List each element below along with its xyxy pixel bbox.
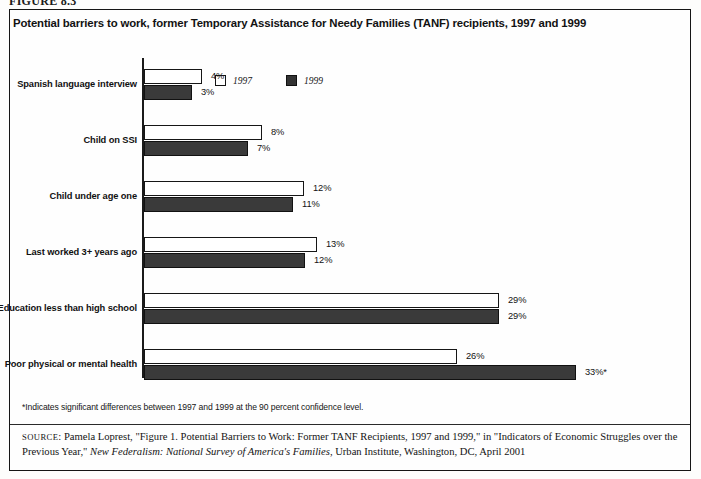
category-label: Education less than high school	[0, 303, 137, 313]
bar-1999	[144, 309, 499, 324]
bar-value-1999: 3%	[201, 87, 214, 97]
chart-plot-area: 1997 1999 Spanish language interview4%3%…	[0, 52, 682, 392]
bar-1997	[144, 349, 457, 364]
bar-value-1997: 26%	[466, 351, 484, 361]
bar-1997	[144, 293, 499, 308]
bar-1999	[144, 141, 248, 156]
source-text-part2: , Urban Institute, Washington, DC, April…	[330, 446, 526, 457]
bar-1997	[144, 125, 262, 140]
page-title: Potential barriers to work, former Tempo…	[13, 16, 653, 30]
source-divider	[10, 424, 690, 425]
bar-1999	[144, 85, 192, 100]
category-label: Poor physical or mental health	[0, 359, 137, 369]
bar-1999	[144, 253, 305, 268]
category-label: Last worked 3+ years ago	[0, 247, 137, 257]
bar-value-1999: 29%	[508, 311, 526, 321]
bar-value-1999: 7%	[257, 143, 270, 153]
chart-footnote: *Indicates significant differences betwe…	[22, 402, 363, 412]
chart-row: Child on SSI8%7%	[0, 122, 682, 166]
bar-value-1999: 12%	[314, 255, 332, 265]
bar-value-1997: 29%	[508, 295, 526, 305]
chart-row: Poor physical or mental health26%33%*	[0, 346, 682, 390]
source-note: SOURCE: Pamela Loprest, "Figure 1. Poten…	[22, 430, 682, 458]
source-publication-title: New Federalism: National Survey of Ameri…	[90, 446, 330, 457]
bar-value-1997: 8%	[271, 127, 284, 137]
bar-value-1997: 12%	[313, 183, 331, 193]
bar-value-1999: 33%*	[585, 367, 607, 377]
bar-value-1999: 11%	[302, 199, 320, 209]
bar-1999	[144, 197, 293, 212]
bar-value-1997: 13%	[326, 239, 344, 249]
category-label: Spanish language interview	[0, 79, 137, 89]
figure-page: FIGURE 8.3 Potential barriers to work, f…	[0, 0, 701, 479]
figure-number-label: FIGURE 8.3	[9, 0, 77, 5]
bar-1997	[144, 237, 317, 252]
chart-row: Child under age one12%11%	[0, 178, 682, 222]
source-prefix: SOURCE	[22, 432, 58, 442]
bar-value-1997: 4%	[211, 71, 224, 81]
bar-1997	[144, 181, 304, 196]
category-label: Child on SSI	[0, 135, 137, 145]
bar-1997	[144, 69, 202, 84]
category-label: Child under age one	[0, 191, 137, 201]
chart-row: Education less than high school29%29%	[0, 290, 682, 334]
bar-1999	[144, 365, 576, 380]
chart-row: Last worked 3+ years ago13%12%	[0, 234, 682, 278]
chart-row: Spanish language interview4%3%	[0, 66, 682, 110]
